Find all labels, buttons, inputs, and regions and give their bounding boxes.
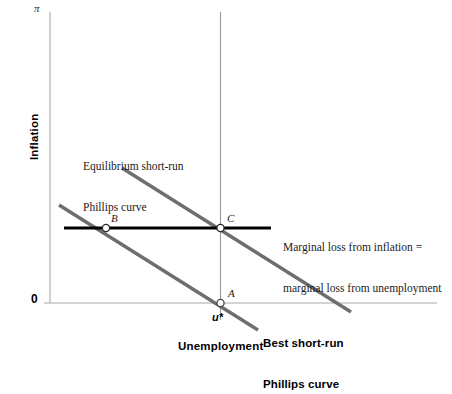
equilibrium-curve-annotation-line1: Equilibrium short-run xyxy=(83,160,184,174)
origin-label: 0 xyxy=(31,292,38,306)
best-curve-annotation: Best short-run Phillips curve xyxy=(263,310,344,394)
equilibrium-curve-annotation: Equilibrium short-run Phillips curve xyxy=(83,133,184,242)
x-axis-title: Unemployment xyxy=(178,340,263,354)
point-label-b: B xyxy=(111,212,118,225)
y-axis-title: Inflation xyxy=(28,97,42,177)
point-label-c: C xyxy=(227,212,234,225)
y-axis-symbol: π xyxy=(34,2,40,15)
best-curve-annotation-line2: Phillips curve xyxy=(263,378,344,392)
point-marker-A xyxy=(217,299,224,306)
marginal-loss-annotation: Marginal loss from inflation = marginal … xyxy=(283,214,442,323)
best-curve-annotation-line1: Best short-run xyxy=(263,337,344,351)
equilibrium-curve-annotation-line2: Phillips curve xyxy=(83,201,184,215)
point-marker-C xyxy=(217,224,224,231)
marginal-loss-annotation-line2: marginal loss from unemployment xyxy=(283,282,442,296)
marginal-loss-annotation-line1: Marginal loss from inflation = xyxy=(283,241,442,255)
natural-rate-label: u* xyxy=(212,311,223,324)
point-label-a: A xyxy=(228,287,235,300)
